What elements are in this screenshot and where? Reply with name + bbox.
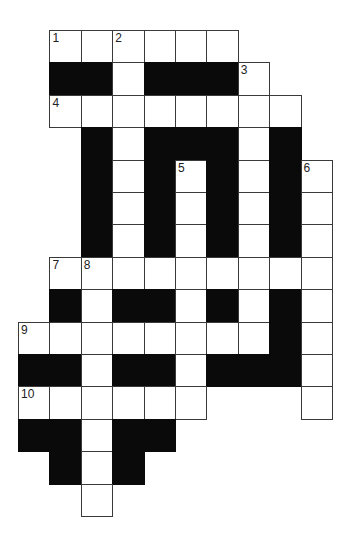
clue-number: 8 [84,259,91,271]
crossword-block [112,419,144,452]
crossword-cell[interactable] [112,224,144,257]
crossword-cell[interactable] [269,257,301,290]
crossword-cell[interactable] [49,386,81,419]
crossword-cell[interactable] [206,95,238,128]
crossword-block [144,419,176,452]
crossword-cell[interactable] [81,386,113,419]
crossword-cell[interactable] [81,289,113,322]
crossword-cell[interactable] [49,322,81,355]
crossword-cell[interactable] [175,95,207,128]
crossword-cell[interactable]: 8 [81,257,113,290]
crossword-block [144,224,176,257]
crossword-cell[interactable] [238,127,270,160]
crossword-cell[interactable] [206,30,238,63]
crossword-cell[interactable] [112,192,144,225]
crossword-cell[interactable]: 2 [112,30,144,63]
clue-number: 10 [21,388,34,400]
crossword-block [18,354,50,387]
crossword-cell[interactable]: 9 [18,322,50,355]
crossword-cell[interactable] [238,257,270,290]
crossword-block [206,354,238,387]
clue-number: 3 [241,64,248,76]
crossword-cell[interactable] [301,257,333,290]
crossword-cell[interactable] [301,192,333,225]
crossword-cell[interactable] [238,322,270,355]
crossword-cell[interactable] [81,30,113,63]
crossword-cell[interactable]: 3 [238,62,270,95]
clue-number: 6 [304,162,311,174]
crossword-cell[interactable] [301,289,333,322]
crossword-cell[interactable] [81,95,113,128]
crossword-block [81,192,113,225]
crossword-block [206,160,238,193]
crossword-block [81,127,113,160]
crossword-cell[interactable] [144,95,176,128]
clue-number: 9 [21,324,28,336]
crossword-cell[interactable] [175,354,207,387]
crossword-cell[interactable] [112,160,144,193]
crossword-block [206,289,238,322]
clue-number: 7 [52,259,59,271]
crossword-cell[interactable] [112,257,144,290]
crossword-cell[interactable] [81,419,113,452]
crossword-block [269,160,301,193]
crossword-block [81,160,113,193]
crossword-block [238,354,270,387]
crossword-cell[interactable] [301,224,333,257]
crossword-cell[interactable] [238,160,270,193]
crossword-cell[interactable] [81,484,113,517]
crossword-block [112,354,144,387]
crossword-cell[interactable] [206,257,238,290]
crossword-block [112,451,144,484]
crossword-cell[interactable] [144,257,176,290]
crossword-block [112,289,144,322]
crossword-cell[interactable] [112,95,144,128]
crossword-cell[interactable]: 10 [18,386,50,419]
crossword-cell[interactable] [81,451,113,484]
crossword-block [206,62,238,95]
crossword-block [81,224,113,257]
crossword-block [206,127,238,160]
crossword-cell[interactable] [301,386,333,419]
crossword-block [49,62,81,95]
crossword-cell[interactable] [269,95,301,128]
crossword-cell[interactable]: 4 [49,95,81,128]
crossword-cell[interactable] [112,62,144,95]
crossword-cell[interactable] [238,95,270,128]
crossword-block [269,354,301,387]
crossword-block [49,419,81,452]
crossword-cell[interactable]: 1 [49,30,81,63]
crossword-cell[interactable] [112,322,144,355]
crossword-cell[interactable]: 6 [301,160,333,193]
crossword-cell[interactable] [144,30,176,63]
crossword-cell[interactable] [175,192,207,225]
crossword-cell[interactable] [112,386,144,419]
crossword-cell[interactable] [238,289,270,322]
crossword-cell[interactable] [144,322,176,355]
crossword-block [269,322,301,355]
crossword-cell[interactable] [81,322,113,355]
crossword-cell[interactable] [175,257,207,290]
crossword-cell[interactable] [175,30,207,63]
clue-number: 5 [178,162,185,174]
crossword-cell[interactable] [175,386,207,419]
crossword-block [144,127,176,160]
crossword-cell[interactable] [301,322,333,355]
crossword-cell[interactable] [238,192,270,225]
crossword-block [269,192,301,225]
crossword-cell[interactable] [175,224,207,257]
crossword-cell[interactable] [206,322,238,355]
crossword-cell[interactable] [175,289,207,322]
crossword-block [144,289,176,322]
crossword-cell[interactable] [112,127,144,160]
clue-number: 2 [115,32,122,44]
crossword-block [49,451,81,484]
crossword-cell[interactable] [175,322,207,355]
crossword-cell[interactable]: 7 [49,257,81,290]
crossword-block [206,224,238,257]
crossword-cell[interactable] [144,386,176,419]
crossword-cell[interactable] [81,354,113,387]
crossword-cell[interactable] [301,354,333,387]
crossword-cell[interactable]: 5 [175,160,207,193]
crossword-cell[interactable] [238,224,270,257]
